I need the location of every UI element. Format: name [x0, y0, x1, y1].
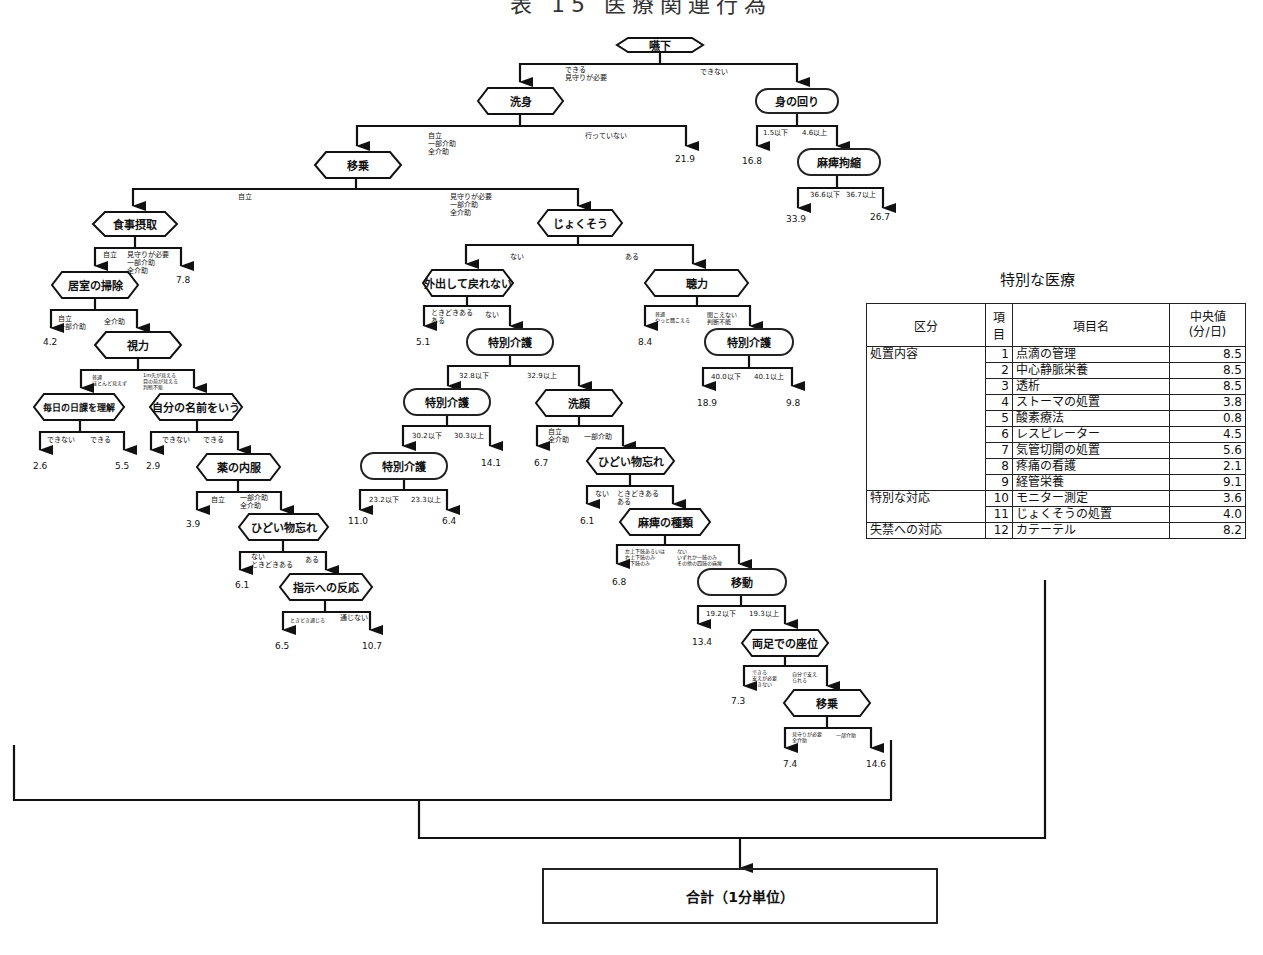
branch-label: 一部介助 全介助	[240, 494, 268, 510]
special-care-table: 区分 項目 項目名 中央値 (分/日) 処置内容1点滴の管理8.5 2中心静脈栄…	[866, 303, 1246, 539]
leaf-value: 26.7	[870, 212, 890, 222]
branch-label: 一部介助	[584, 433, 612, 441]
cell-median: 4.0	[1170, 507, 1246, 523]
branch-label: 32.9以上	[527, 372, 557, 380]
branch-label: 23.3以上	[411, 496, 441, 504]
node-shiryoku: 視力	[95, 332, 181, 358]
node-kusuri: 薬の内服	[197, 454, 280, 480]
node-kyoshitsu: 居室の掃除	[52, 272, 138, 298]
table-row: 4ストーマの処置3.8	[867, 395, 1246, 411]
table-row: 5酸素療法0.8	[867, 411, 1246, 427]
branch-label: 自立 全介助	[548, 428, 569, 444]
cell-name: 気管切開の処置	[1013, 443, 1170, 459]
cell-name: モニター測定	[1013, 491, 1170, 507]
cell-no: 11	[986, 507, 1013, 523]
cell-name: 中心静脈栄養	[1013, 363, 1170, 379]
leaf-value: 7.8	[176, 275, 190, 285]
cell-no: 3	[986, 379, 1013, 395]
cell-name: 点滴の管理	[1013, 347, 1170, 363]
leaf-value: 14.1	[481, 458, 501, 468]
cell-category	[867, 475, 986, 491]
branch-label: 自分で支え られる	[792, 671, 817, 683]
cell-no: 10	[986, 491, 1013, 507]
branch-label: 自立	[103, 251, 117, 259]
branch-label: ときどきある ある	[431, 309, 473, 325]
leaf-value: 8.4	[638, 337, 652, 347]
leaf-value: 6.7	[534, 458, 548, 468]
branch-label: できない	[700, 68, 728, 76]
branch-label: ときどき通じる	[290, 616, 325, 624]
branch-label: 40.0以下	[711, 373, 741, 381]
node-tokubetsu-right: 特別介護	[704, 328, 794, 356]
node-gaishutsu: 外出して戻れない	[423, 270, 513, 296]
cell-no: 8	[986, 459, 1013, 475]
node-ijou: 移乗	[315, 152, 401, 178]
cell-no: 12	[986, 523, 1013, 539]
branch-label: 自立 一部介助	[58, 315, 86, 331]
table-row: 7気管切開の処置5.6	[867, 443, 1246, 459]
node-minomawari: 身の回り	[755, 88, 839, 114]
leaf-value: 21.9	[675, 154, 695, 164]
branch-label: できない	[47, 436, 75, 444]
cell-category	[867, 459, 986, 475]
cell-no: 6	[986, 427, 1013, 443]
table-row: 11じょくそうの処置4.0	[867, 507, 1246, 523]
node-tokubetsu-2: 特別介護	[403, 388, 491, 416]
table-row: 6レスピレーター4.5	[867, 427, 1246, 443]
branch-label: ある	[305, 556, 319, 564]
branch-label: 36.6以下	[810, 191, 840, 199]
cell-category	[867, 427, 986, 443]
branch-label: できる 見守りが必要	[565, 66, 607, 82]
branch-label: 4.6以上	[802, 129, 827, 137]
leaf-value: 6.1	[235, 580, 249, 590]
leaf-value: 18.9	[697, 398, 717, 408]
cell-name: じょくそうの処置	[1013, 507, 1170, 523]
node-mahi-kousyuku: 麻痺拘縮	[797, 148, 881, 176]
leaf-value: 6.8	[612, 577, 626, 587]
leaf-value: 2.6	[33, 461, 47, 471]
branch-label: 聞こえない 判断不能	[707, 311, 737, 325]
cell-category	[867, 411, 986, 427]
table-row: 失禁への対応12カテーテル8.2	[867, 523, 1246, 539]
leaf-value: 2.9	[146, 461, 160, 471]
table-row: 9経管栄養9.1	[867, 475, 1246, 491]
branch-label: 見守りが必要 全介助	[792, 731, 822, 743]
col-header-category: 区分	[867, 304, 986, 347]
node-sengan: 洗顔	[536, 390, 622, 416]
table-row: 3透析8.5	[867, 379, 1246, 395]
branch-label: 普通 ほとんど見えず	[92, 374, 127, 386]
node-jokusou: じょくそう	[538, 210, 622, 236]
branch-label: 23.2以下	[369, 496, 399, 504]
leaf-value: 7.4	[783, 759, 797, 769]
leaf-value: 6.1	[580, 516, 594, 526]
col-header-item-name: 項目名	[1013, 304, 1170, 347]
cell-median: 4.5	[1170, 427, 1246, 443]
cell-category	[867, 395, 986, 411]
cell-no: 5	[986, 411, 1013, 427]
table-row: 8疼痛の看護2.1	[867, 459, 1246, 475]
branch-label: できる 支えが必要 できない	[752, 669, 777, 687]
branch-label: ときどきある ある	[617, 490, 659, 506]
leaf-value: 4.2	[43, 337, 57, 347]
branch-label: 40.1以上	[754, 373, 784, 381]
node-chouryoku: 聴力	[645, 270, 748, 296]
table-row: 処置内容1点滴の管理8.5	[867, 347, 1246, 363]
branch-label: ない ときどきある	[251, 553, 293, 569]
branch-label: 1.5以下	[763, 129, 788, 137]
branch-label: 32.8以下	[459, 372, 489, 380]
leaf-value: 13.4	[692, 637, 712, 647]
special-care-title: 特別な医療	[1000, 268, 1075, 289]
branch-label: できる	[203, 436, 224, 444]
node-shiji: 指示への反応	[280, 574, 372, 600]
branch-label: ない	[595, 490, 609, 498]
cell-category	[867, 363, 986, 379]
cell-category	[867, 379, 986, 395]
table-row: 特別な対応10モニター測定3.6	[867, 491, 1246, 507]
cell-name: レスピレーター	[1013, 427, 1170, 443]
cell-category: 処置内容	[867, 347, 986, 363]
branch-label: 30.3以上	[454, 432, 484, 440]
leaf-value: 9.8	[786, 398, 800, 408]
node-idou: 移動	[697, 568, 787, 596]
cell-name: 疼痛の看護	[1013, 459, 1170, 475]
branch-label: できる	[90, 436, 111, 444]
